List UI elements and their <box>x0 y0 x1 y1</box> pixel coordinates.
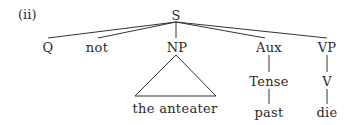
np-triangle <box>135 55 216 96</box>
node-q: Q <box>43 41 54 54</box>
node-vp: VP <box>318 41 337 54</box>
node-die: die <box>316 106 337 119</box>
node-np-leaf: the anteater <box>133 102 218 115</box>
node-s: S <box>171 9 180 22</box>
node-past: past <box>254 106 283 119</box>
node-tense: Tense <box>249 75 289 88</box>
node-v: V <box>322 75 332 88</box>
node-np: NP <box>167 41 188 54</box>
node-aux: Aux <box>256 41 282 54</box>
node-not: not <box>86 41 108 54</box>
